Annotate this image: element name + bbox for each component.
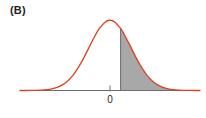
normal-curve-line — [20, 20, 200, 90]
upper-tail-shaded-area — [121, 28, 200, 90]
normal-distribution-plot: 0 — [0, 0, 206, 118]
x-axis-tick-label-zero: 0 — [107, 94, 113, 105]
figure-panel-b: (B) 0 — [0, 0, 206, 118]
